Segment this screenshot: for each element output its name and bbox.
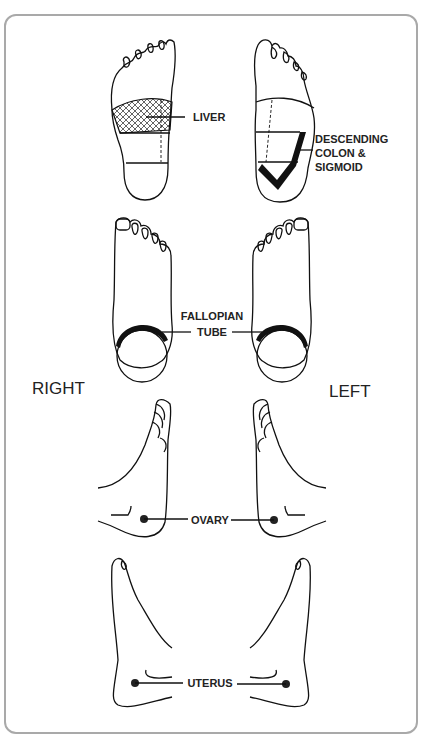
right-inner-foot bbox=[112, 559, 183, 707]
fallopian-label-1: FALLOPIAN bbox=[181, 310, 243, 322]
left-inner-foot bbox=[237, 559, 310, 707]
right-top-foot bbox=[113, 218, 191, 382]
descending-colon-label-2: COLON & bbox=[315, 147, 366, 159]
descending-colon-label-1: DESCENDING bbox=[315, 133, 388, 145]
uterus-label: UTERUS bbox=[187, 677, 232, 689]
ovary-label: OVARY bbox=[191, 514, 230, 526]
left-outer-foot bbox=[231, 400, 326, 537]
right-side-label: RIGHT bbox=[32, 379, 85, 398]
left-sole-foot bbox=[254, 40, 314, 202]
left-side-label: LEFT bbox=[329, 382, 371, 401]
left-top-foot bbox=[232, 218, 311, 382]
right-sole-foot bbox=[111, 40, 185, 200]
liver-label: LIVER bbox=[193, 111, 225, 123]
descending-colon-label-3: SIGMOID bbox=[315, 161, 363, 173]
fallopian-label-2: TUBE bbox=[197, 326, 227, 338]
right-outer-foot bbox=[98, 400, 188, 537]
